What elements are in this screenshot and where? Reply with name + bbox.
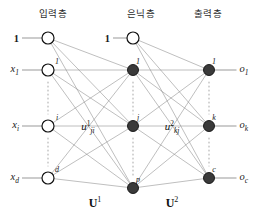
node-filled xyxy=(204,121,215,132)
node-filled xyxy=(204,65,215,76)
edge-hidden-output xyxy=(133,38,209,70)
layer-header-output: 출력층 xyxy=(194,6,222,20)
node-filled xyxy=(128,65,139,76)
weight-label-u1: u1ji xyxy=(81,119,94,136)
node-open xyxy=(42,64,54,76)
node-open xyxy=(127,32,139,44)
node-filled xyxy=(204,173,215,184)
edge-hidden-output xyxy=(133,178,209,188)
edges-hidden-to-output xyxy=(133,38,209,188)
node-open xyxy=(42,120,54,132)
input-label-2: xd xyxy=(11,171,19,185)
node-index-input-1: i xyxy=(56,113,58,122)
node-index-output-2: c xyxy=(212,165,216,174)
neural-network-diagram: 입력층은닉층출력층 11x1xixdo1okoc 1id1jp1kc u1jiu… xyxy=(0,0,259,217)
layer-header-hidden: 은닉층 xyxy=(127,6,155,20)
node-filled xyxy=(128,121,139,132)
node-open xyxy=(42,32,54,44)
edges-input-to-hidden xyxy=(48,38,133,188)
output-label-1: ok xyxy=(240,119,249,133)
node-index-input-0: 1 xyxy=(55,57,59,66)
node-index-output-0: 1 xyxy=(212,57,216,66)
node-index-hidden-2: p xyxy=(136,175,140,184)
input-label-1: xi xyxy=(12,119,19,133)
node-index-hidden-1: j xyxy=(137,113,139,122)
edge-hidden-output xyxy=(133,38,209,126)
matrix-label-U1: U1 xyxy=(89,195,102,211)
layer-header-input: 입력층 xyxy=(39,6,67,20)
node-open xyxy=(42,172,54,184)
input-label-0: x1 xyxy=(11,63,19,77)
network-graph xyxy=(0,0,259,217)
node-index-output-1: k xyxy=(212,113,216,122)
edge-input-hidden xyxy=(48,38,133,70)
node-index-input-2: d xyxy=(55,165,59,174)
bias-label-input: 1 xyxy=(14,33,19,44)
weight-label-u2: u2kj xyxy=(165,119,180,136)
edge-input-hidden xyxy=(48,178,133,188)
output-label-2: oc xyxy=(240,171,249,185)
node-filled xyxy=(128,183,139,194)
bias-label-hidden: 1 xyxy=(105,33,110,44)
output-label-0: o1 xyxy=(240,63,249,77)
node-index-hidden-0: 1 xyxy=(136,57,140,66)
matrix-label-U2: U2 xyxy=(166,195,179,211)
